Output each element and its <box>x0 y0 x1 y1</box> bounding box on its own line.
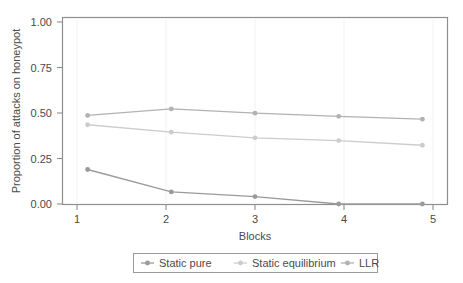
data-point <box>169 189 174 194</box>
data-point <box>85 113 90 118</box>
data-point <box>169 106 174 111</box>
legend-marker-icon <box>145 261 150 266</box>
legend-marker-icon <box>238 261 243 266</box>
x-axis-ticks <box>77 205 433 211</box>
data-point <box>253 111 258 116</box>
y-axis-ticks <box>57 22 63 204</box>
data-point <box>253 194 258 199</box>
data-point <box>336 138 341 143</box>
y-axis-title: Proportion of attacks on honeypot <box>10 29 22 194</box>
line-chart: 1.00 0.75 0.50 0.25 0.00 Proportion of a… <box>0 0 463 283</box>
legend-item-static-equilibrium[interactable]: Static equilibrium <box>234 257 336 269</box>
legend-marker-icon <box>345 261 350 266</box>
data-point <box>420 143 425 148</box>
legend-item-llr[interactable]: LLR <box>341 257 379 269</box>
y-tick-label-2: 0.75 <box>31 62 52 74</box>
x-tick-label-3: 3 <box>252 213 258 225</box>
legend-label: Static equilibrium <box>252 257 336 269</box>
legend-label: LLR <box>359 257 379 269</box>
data-point <box>420 202 425 207</box>
y-tick-label-1: 1.00 <box>31 16 52 28</box>
y-tick-label-4: 0.25 <box>31 153 52 165</box>
x-tick-label-4: 4 <box>341 213 347 225</box>
legend-item-static-pure[interactable]: Static pure <box>141 257 212 269</box>
chart-figure: 1.00 0.75 0.50 0.25 0.00 Proportion of a… <box>0 0 463 283</box>
y-tick-label-3: 0.50 <box>31 107 52 119</box>
x-axis-title: Blocks <box>239 230 272 242</box>
data-point <box>336 202 341 207</box>
y-tick-label-5: 0.00 <box>31 198 52 210</box>
legend: Static pureStatic equilibriumLLR <box>141 257 379 269</box>
data-point <box>85 122 90 127</box>
x-tick-label-5: 5 <box>430 213 436 225</box>
data-point <box>336 114 341 119</box>
legend-label: Static pure <box>159 257 212 269</box>
x-tick-label-1: 1 <box>74 213 80 225</box>
data-point <box>420 117 425 122</box>
x-tick-label-2: 2 <box>163 213 169 225</box>
data-point <box>253 135 258 140</box>
data-point <box>85 167 90 172</box>
data-point <box>169 130 174 135</box>
